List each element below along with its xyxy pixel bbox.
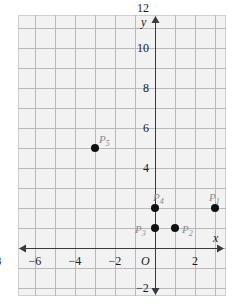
x-axis-label: x <box>213 232 218 244</box>
point-index: 1 <box>216 197 220 206</box>
point-index: 2 <box>189 229 193 238</box>
y-axis-arrow-down <box>152 288 160 295</box>
point-letter: P <box>99 133 106 145</box>
y-axis-label: y <box>141 16 146 28</box>
data-point-label-p2: P2 <box>182 224 193 238</box>
y-tick-label: 4 <box>143 162 149 174</box>
y-tick-label: −2 <box>136 282 149 294</box>
coordinate-plane-figure: −8−6−4−221210864−2Oxy P1P2P3P4P5P6 <box>0 0 241 308</box>
point-letter: P <box>135 223 142 235</box>
data-point-p2[interactable] <box>171 224 179 232</box>
data-point-label-p3: P3 <box>135 224 146 238</box>
x-axis-arrow-right <box>217 245 224 253</box>
data-point-label-p1: P1 <box>209 192 220 206</box>
x-tick-label: −4 <box>69 255 82 267</box>
x-axis-arrow-left <box>19 245 26 253</box>
x-tick-label: −2 <box>109 255 122 267</box>
origin-label: O <box>141 255 150 267</box>
y-axis-arrow-up <box>152 16 160 23</box>
data-point-p3[interactable] <box>151 224 159 232</box>
y-tick-label: 12 <box>137 2 149 14</box>
data-point-p5[interactable] <box>91 144 99 152</box>
point-letter: P <box>209 191 216 203</box>
data-point-label-p4: P4 <box>153 192 164 206</box>
point-index: 5 <box>106 139 110 148</box>
x-tick-label: 2 <box>192 255 198 267</box>
x-tick-label: −6 <box>29 255 42 267</box>
y-tick-label: 10 <box>137 42 149 54</box>
x-tick-label: −8 <box>0 255 1 267</box>
y-tick-label: 6 <box>143 122 149 134</box>
point-letter: P <box>153 191 160 203</box>
data-point-label-p5: P5 <box>99 134 110 148</box>
point-letter: P <box>182 223 189 235</box>
point-index: 4 <box>160 197 164 206</box>
point-index: 3 <box>142 229 146 238</box>
y-tick-label: 8 <box>143 82 149 94</box>
